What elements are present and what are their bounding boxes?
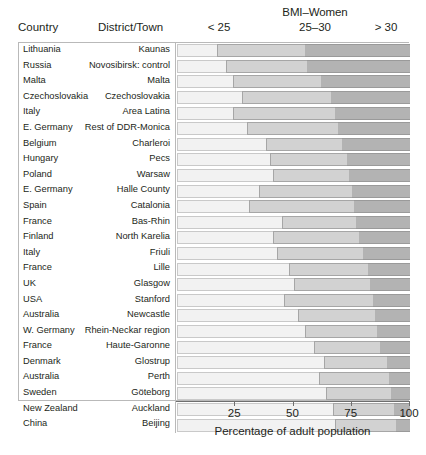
bar-segment-under-25: [177, 387, 326, 400]
row-district-label: Area Latina: [122, 106, 170, 116]
table-row: ItalyFriuli: [19, 246, 409, 262]
chart-plot-area: LithuaniaKaunasRussiaNovosibirsk: contro…: [18, 42, 409, 401]
row-label-cell: New ZealandAuckland: [19, 402, 176, 418]
row-country-label: W. Germany: [23, 325, 75, 335]
row-label-cell: USAStanford: [19, 293, 176, 309]
bar-segment-over-30: [380, 341, 410, 354]
table-row: SwedenGöteborg: [19, 386, 409, 402]
row-bar-cell: [177, 121, 410, 137]
bar-segment-over-30: [368, 263, 410, 276]
table-row: HungaryPecs: [19, 152, 409, 168]
bar-segment-over-30: [352, 185, 410, 198]
legend-label-under-25: < 25: [188, 21, 250, 33]
row-country-label: E. Germany: [23, 184, 73, 194]
row-country-label: Czechoslovakia: [23, 91, 88, 101]
row-country-label: France: [23, 216, 52, 226]
bar-segment-under-25: [177, 216, 282, 229]
x-axis-tick: [409, 401, 410, 406]
row-label-cell: UKGlasgow: [19, 277, 176, 293]
bar-segment-over-30: [373, 294, 410, 307]
bar-segment-25-30: [273, 231, 359, 244]
row-country-label: Italy: [23, 106, 40, 116]
bar-segment-over-30: [377, 325, 410, 338]
row-bar-cell: [177, 370, 410, 386]
bar-segment-25-30: [277, 247, 363, 260]
row-bar-cell: [177, 215, 410, 231]
row-country-label: Australia: [23, 371, 59, 381]
row-district-label: Haute-Garonne: [106, 340, 170, 350]
bar-segment-under-25: [177, 185, 259, 198]
bar-segment-under-25: [177, 309, 298, 322]
row-district-label: Friuli: [150, 247, 170, 257]
row-label-cell: FinlandNorth Karelia: [19, 230, 176, 246]
row-label-cell: AustraliaPerth: [19, 370, 176, 386]
row-country-label: Belgium: [23, 138, 57, 148]
row-bar-cell: [177, 199, 410, 215]
bar-segment-under-25: [177, 372, 319, 385]
bar-segment-under-25: [177, 169, 273, 182]
row-country-label: Russia: [23, 60, 51, 70]
row-district-label: Pecs: [149, 153, 170, 163]
table-row: AustraliaPerth: [19, 370, 409, 386]
bar-segment-over-30: [391, 387, 410, 400]
row-bar-cell: [177, 168, 410, 184]
bar-segment-25-30: [314, 341, 379, 354]
row-label-cell: FranceHaute-Garonne: [19, 339, 176, 355]
row-country-label: Spain: [23, 200, 47, 210]
bar-segment-25-30: [247, 122, 338, 135]
row-bar-cell: [177, 137, 410, 153]
bar-segment-25-30: [242, 91, 331, 104]
row-bar-cell: [177, 261, 410, 277]
table-row: USAStanford: [19, 293, 409, 309]
bar-segment-under-25: [177, 107, 233, 120]
row-district-label: Rhein-Neckar region: [85, 325, 170, 335]
table-row: MaltaMalta: [19, 74, 409, 90]
table-row: PolandWarsaw: [19, 168, 409, 184]
bar-segment-under-25: [177, 294, 284, 307]
bar-segment-25-30: [233, 75, 322, 88]
column-header-district: District/Town: [98, 21, 163, 33]
table-row: FranceBas-Rhin: [19, 215, 409, 231]
bar-segment-under-25: [177, 403, 333, 416]
x-axis-tick-label: 50: [286, 407, 299, 419]
x-axis-tick-label: 25: [228, 407, 241, 419]
bar-segment-over-30: [342, 138, 410, 151]
table-row: DenmarkGlostrup: [19, 355, 409, 371]
row-bar-cell: [177, 277, 410, 293]
row-label-cell: HungaryPecs: [19, 152, 176, 168]
bar-segment-25-30: [298, 309, 375, 322]
legend-label-over-30: > 30: [355, 21, 417, 33]
row-label-cell: ItalyArea Latina: [19, 105, 176, 121]
row-country-label: Lithuania: [23, 44, 61, 54]
bar-segment-under-25: [177, 75, 233, 88]
bar-segment-over-30: [335, 107, 410, 120]
bar-segment-25-30: [294, 278, 371, 291]
bar-segment-over-30: [389, 372, 410, 385]
row-label-cell: ItalyFriuli: [19, 246, 176, 262]
row-label-cell: RussiaNovosibirsk: control: [19, 59, 176, 75]
bar-segment-25-30: [282, 216, 357, 229]
chart-rows: LithuaniaKaunasRussiaNovosibirsk: contro…: [19, 43, 409, 400]
bar-segment-over-30: [387, 356, 410, 369]
bar-segment-over-30: [307, 60, 410, 73]
x-axis-tick-label: 100: [399, 407, 418, 419]
table-row: FranceHaute-Garonne: [19, 339, 409, 355]
row-bar-cell: [177, 308, 410, 324]
bar-segment-over-30: [370, 278, 410, 291]
row-district-label: Czechoslovakia: [105, 91, 170, 101]
row-label-cell: CzechoslovakiaCzechoslovakia: [19, 90, 176, 106]
row-label-cell: PolandWarsaw: [19, 168, 176, 184]
bar-segment-25-30: [284, 294, 373, 307]
bar-segment-over-30: [359, 231, 410, 244]
bar-segment-over-30: [375, 309, 410, 322]
table-row: ItalyArea Latina: [19, 105, 409, 121]
row-label-cell: E. GermanyRest of DDR-Monica: [19, 121, 176, 137]
bar-segment-under-25: [177, 325, 305, 338]
row-label-cell: DenmarkGlostrup: [19, 355, 176, 371]
row-country-label: New Zealand: [23, 403, 78, 413]
row-country-label: E. Germany: [23, 122, 73, 132]
bar-segment-under-25: [177, 91, 242, 104]
table-row: FinlandNorth Karelia: [19, 230, 409, 246]
bar-segment-over-30: [321, 75, 410, 88]
bar-segment-under-25: [177, 341, 314, 354]
